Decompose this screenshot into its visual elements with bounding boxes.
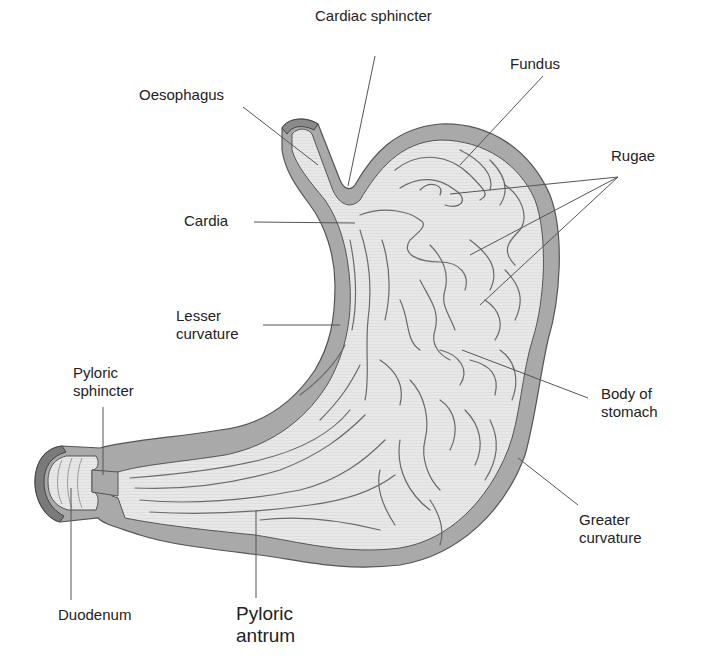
label-pyloric-antrum-line1: Pyloric — [236, 603, 295, 625]
label-pyloric-sphincter-line1: Pyloric — [73, 364, 134, 382]
label-pyloric-sphincter-line2: sphincter — [73, 382, 134, 400]
label-lesser-curvature: Lesser curvature — [176, 307, 239, 343]
label-lesser-curvature-line2: curvature — [176, 325, 239, 343]
label-cardia: Cardia — [184, 212, 228, 230]
label-body-of-stomach-line2: stomach — [601, 403, 658, 421]
stomach-diagram — [0, 0, 703, 659]
label-lesser-curvature-line1: Lesser — [176, 307, 239, 325]
pyloric-sphincter-shape — [92, 470, 118, 496]
label-fundus: Fundus — [510, 55, 560, 73]
label-oesophagus: Oesophagus — [139, 86, 224, 104]
label-greater-curvature-line2: curvature — [579, 529, 642, 547]
duodenum-lumen — [48, 456, 98, 510]
label-cardiac-sphincter: Cardiac sphincter — [315, 7, 432, 25]
label-duodenum: Duodenum — [58, 606, 131, 624]
label-greater-curvature: Greater curvature — [579, 511, 642, 547]
label-greater-curvature-line1: Greater — [579, 511, 642, 529]
label-body-of-stomach: Body of stomach — [601, 385, 658, 421]
label-body-of-stomach-line1: Body of — [601, 385, 658, 403]
label-rugae: Rugae — [611, 147, 655, 165]
label-pyloric-antrum-line2: antrum — [236, 625, 295, 647]
label-pyloric-antrum: Pyloric antrum — [236, 603, 295, 647]
stomach-lumen — [108, 129, 543, 550]
label-pyloric-sphincter: Pyloric sphincter — [73, 364, 134, 400]
